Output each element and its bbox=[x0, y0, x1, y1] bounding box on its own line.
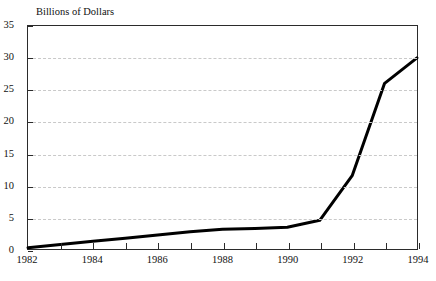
data-series-line bbox=[28, 26, 417, 249]
y-tick-mark bbox=[28, 187, 33, 188]
x-tick-mark bbox=[289, 243, 290, 249]
x-tick-mark bbox=[191, 243, 192, 249]
y-tick-label: 5 bbox=[0, 213, 14, 224]
x-tick-label: 1984 bbox=[69, 254, 115, 265]
gridline-y bbox=[28, 219, 417, 220]
gridline-y bbox=[28, 187, 417, 188]
y-tick-mark bbox=[28, 26, 33, 27]
x-tick-mark bbox=[354, 243, 355, 249]
gridline-y bbox=[28, 155, 417, 156]
x-tick-mark bbox=[321, 243, 322, 249]
y-tick-mark bbox=[28, 90, 33, 91]
x-tick-mark bbox=[386, 243, 387, 249]
y-tick-label: 20 bbox=[0, 116, 14, 127]
y-tick-label: 10 bbox=[0, 181, 14, 192]
x-tick-mark bbox=[419, 243, 420, 249]
y-tick-mark bbox=[28, 219, 33, 220]
gridline-y bbox=[28, 122, 417, 123]
y-tick-mark bbox=[28, 58, 33, 59]
x-tick-label: 1986 bbox=[134, 254, 180, 265]
x-tick-label: 1990 bbox=[265, 254, 311, 265]
y-tick-label: 30 bbox=[0, 52, 14, 63]
y-tick-label: 25 bbox=[0, 84, 14, 95]
x-tick-mark bbox=[126, 243, 127, 249]
chart-figure: Billions of Dollars 05101520253035198219… bbox=[0, 0, 436, 281]
y-tick-mark bbox=[28, 155, 33, 156]
x-tick-mark bbox=[93, 243, 94, 249]
x-tick-label: 1992 bbox=[330, 254, 376, 265]
x-tick-label: 1988 bbox=[200, 254, 246, 265]
y-tick-label: 35 bbox=[0, 20, 14, 31]
y-tick-label: 15 bbox=[0, 149, 14, 160]
x-tick-mark bbox=[256, 243, 257, 249]
y-axis-title: Billions of Dollars bbox=[36, 5, 114, 18]
x-tick-label: 1982 bbox=[4, 254, 50, 265]
gridline-y bbox=[28, 90, 417, 91]
x-tick-label: 1994 bbox=[395, 254, 436, 265]
gridline-y bbox=[28, 58, 417, 59]
y-tick-mark bbox=[28, 122, 33, 123]
plot-area bbox=[27, 25, 418, 250]
y-tick-mark bbox=[28, 251, 33, 252]
x-tick-mark bbox=[224, 243, 225, 249]
x-tick-mark bbox=[158, 243, 159, 249]
x-tick-mark bbox=[61, 243, 62, 249]
